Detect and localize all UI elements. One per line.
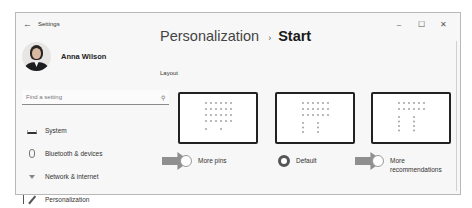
pin-dot xyxy=(210,114,212,116)
layout-preview-more-pins[interactable] xyxy=(178,92,258,144)
pin-dot xyxy=(220,102,222,104)
pin-dot xyxy=(403,108,405,110)
radio-button[interactable] xyxy=(180,155,192,167)
pin-dot xyxy=(408,108,410,110)
active-indicator xyxy=(23,195,24,204)
pin-dot xyxy=(230,120,232,122)
scrollbar[interactable] xyxy=(456,41,457,191)
pin-dot xyxy=(413,108,415,110)
recommendation-dot xyxy=(413,130,415,132)
pin-dot xyxy=(418,102,420,104)
recommendation-dot xyxy=(398,116,400,118)
layout-preview-default[interactable] xyxy=(275,92,355,144)
pin-dot xyxy=(205,108,207,110)
recommendation-dot xyxy=(317,127,319,129)
radio-label: Default xyxy=(296,156,317,165)
sidebar-item-network[interactable]: Network & internet xyxy=(16,165,171,188)
window-controls: – ☐ ✕ xyxy=(388,16,454,32)
pin-dot xyxy=(423,108,425,110)
recommendation-dot xyxy=(413,125,415,127)
pin-dot xyxy=(322,108,324,110)
recommendation-dot xyxy=(205,128,207,130)
recommendation-dot xyxy=(302,131,304,133)
layout-dot-grid xyxy=(277,94,352,141)
breadcrumb-parent[interactable]: Personalization xyxy=(160,28,259,44)
pin-dot xyxy=(423,102,425,104)
pin-dot xyxy=(220,108,222,110)
layout-dot-grid xyxy=(180,94,255,141)
page-title: Start xyxy=(278,28,311,44)
layout-preview-more-recommendations[interactable] xyxy=(371,92,451,144)
recommendation-dot xyxy=(317,131,319,133)
sidebar-item-label: Bluetooth & devices xyxy=(45,150,102,157)
main-content: Personalization › Start Layout xyxy=(160,28,311,44)
pin-dot xyxy=(317,114,319,116)
pin-dot xyxy=(327,114,329,116)
search-box[interactable]: ⚲ xyxy=(22,90,169,105)
sidebar-item-label: Network & internet xyxy=(45,173,98,180)
pin-dot xyxy=(312,102,314,104)
radio-option-default[interactable]: Default xyxy=(278,155,317,167)
sidebar-item-label: System xyxy=(45,127,67,134)
radio-label: More recommendations xyxy=(390,156,442,174)
pin-dot xyxy=(215,102,217,104)
pin-dot xyxy=(418,108,420,110)
personalization-icon xyxy=(26,195,38,205)
pin-dot xyxy=(317,102,319,104)
network-icon xyxy=(26,172,38,182)
user-profile[interactable]: Anna Wilson xyxy=(22,42,106,71)
radio-button[interactable] xyxy=(372,155,384,167)
recommendation-dot xyxy=(302,127,304,129)
radio-button-selected[interactable] xyxy=(278,155,290,167)
pin-dot xyxy=(317,108,319,110)
recommendation-dot xyxy=(413,116,415,118)
back-arrow-icon[interactable]: ← xyxy=(23,19,32,29)
avatar xyxy=(22,42,51,71)
pin-dot xyxy=(403,102,405,104)
system-icon xyxy=(26,126,38,136)
pin-dot xyxy=(327,102,329,104)
minimize-button[interactable]: – xyxy=(388,16,410,32)
section-label-layout: Layout xyxy=(160,70,178,76)
pin-dot xyxy=(307,102,309,104)
sidebar-item-system[interactable]: System xyxy=(16,119,171,142)
pin-dot xyxy=(230,102,232,104)
search-input[interactable] xyxy=(26,94,146,100)
recommendation-dot xyxy=(317,122,319,124)
sidebar-nav: System Bluetooth & devices Network & int… xyxy=(16,119,171,208)
pin-dot xyxy=(408,102,410,104)
search-icon[interactable]: ⚲ xyxy=(161,94,165,101)
pin-dot xyxy=(225,114,227,116)
radio-label-line-1: More xyxy=(390,157,405,164)
pin-dot xyxy=(225,120,227,122)
pin-dot xyxy=(398,102,400,104)
sidebar-item-personalization[interactable]: Personalization xyxy=(16,188,171,208)
pin-dot xyxy=(302,102,304,104)
pin-dot xyxy=(225,108,227,110)
pin-dot xyxy=(302,108,304,110)
sidebar-item-bluetooth[interactable]: Bluetooth & devices xyxy=(16,142,171,165)
radio-label: More pins xyxy=(198,156,227,165)
pin-dot xyxy=(307,108,309,110)
pin-dot xyxy=(210,120,212,122)
pin-dot xyxy=(322,102,324,104)
recommendation-dot xyxy=(398,130,400,132)
radio-label-line-2: recommendations xyxy=(390,166,442,173)
pin-dot xyxy=(302,114,304,116)
pin-dot xyxy=(312,108,314,110)
pin-dot xyxy=(398,108,400,110)
pin-dot xyxy=(215,114,217,116)
radio-option-more-recommendations[interactable]: More recommendations xyxy=(372,155,442,174)
pin-dot xyxy=(230,108,232,110)
pin-dot xyxy=(220,120,222,122)
maximize-button[interactable]: ☐ xyxy=(410,16,432,32)
radio-option-more-pins[interactable]: More pins xyxy=(180,155,227,167)
pin-dot xyxy=(322,114,324,116)
close-button[interactable]: ✕ xyxy=(432,16,454,32)
pin-dot xyxy=(307,114,309,116)
breadcrumb: Personalization › Start xyxy=(160,28,311,44)
layout-dot-grid xyxy=(373,94,448,141)
pin-dot xyxy=(210,108,212,110)
pin-dot xyxy=(230,114,232,116)
pin-dot xyxy=(312,114,314,116)
